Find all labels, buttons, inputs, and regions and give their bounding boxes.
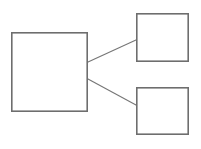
edge-group xyxy=(88,40,136,105)
node-group xyxy=(12,14,188,134)
node-left[interactable] xyxy=(12,33,87,111)
diagram-svg xyxy=(0,0,201,149)
node-top-right-rect[interactable] xyxy=(137,14,188,61)
edge-left-to-top-right[interactable] xyxy=(88,40,136,62)
diagram-canvas xyxy=(0,0,201,149)
edge-left-to-bottom-right[interactable] xyxy=(88,79,136,105)
node-bottom-right[interactable] xyxy=(137,88,188,134)
node-left-rect[interactable] xyxy=(12,33,87,111)
node-bottom-right-rect[interactable] xyxy=(137,88,188,134)
node-top-right[interactable] xyxy=(137,14,188,61)
